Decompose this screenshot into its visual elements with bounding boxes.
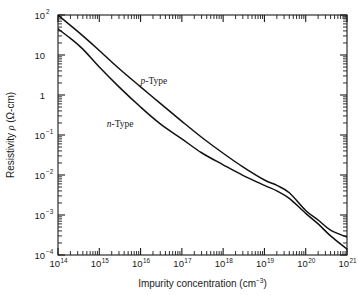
- y-tick-label: 10−2: [34, 168, 53, 180]
- curve-annotation-text: n-Type: [107, 119, 134, 129]
- x-tick-label-mantissa: 10: [297, 258, 308, 269]
- x-tick-label: 1020: [297, 257, 316, 269]
- x-axis-title-text: Impurity concentration (cm−3): [138, 277, 267, 289]
- y-tick-label-mantissa: 1: [40, 90, 45, 101]
- x-tick-label: 1016: [132, 257, 151, 269]
- x-tick-label-mantissa: 10: [132, 258, 143, 269]
- plot-frame: [58, 15, 347, 255]
- y-tick-label-mantissa: 10: [34, 210, 45, 221]
- chart-canvas: 1014101510161017101810191020102110210110…: [0, 0, 358, 295]
- x-tick-label-exponent: 15: [102, 257, 110, 264]
- resistivity-chart-figure: 1014101510161017101810191020102110210110…: [0, 0, 358, 295]
- curve-annotation-text: p-Type: [139, 76, 167, 86]
- y-tick-label-exponent: −1: [46, 128, 54, 135]
- y-tick-label-mantissa: 10: [34, 50, 45, 61]
- x-tick-label-mantissa: 10: [256, 258, 267, 269]
- y-tick-label-exponent: −3: [46, 208, 54, 215]
- x-tick-label-exponent: 14: [61, 257, 69, 264]
- y-tick-label-exponent: −2: [46, 168, 54, 175]
- x-tick-label-mantissa: 10: [91, 258, 102, 269]
- x-tick-label: 1021: [339, 257, 358, 269]
- x-tick-label-exponent: 19: [267, 257, 275, 264]
- x-tick-label: 1014: [50, 257, 69, 269]
- x-tick-label-exponent: 21: [350, 257, 358, 264]
- curve-annotation-p-type: p-Type: [139, 76, 167, 86]
- y-tick-label: 1: [40, 90, 45, 101]
- y-tick-label: 10−3: [34, 208, 53, 220]
- y-tick-label: 10: [34, 50, 45, 61]
- x-tick-label: 1019: [256, 257, 275, 269]
- y-axis-title-text: Resistivity ρ (Ω-cm): [5, 92, 16, 178]
- curve-annotation-n-type: n-Type: [107, 119, 134, 129]
- curve-p-type: [58, 15, 347, 237]
- x-tick-label-exponent: 20: [308, 257, 316, 264]
- y-tick-label: 10−1: [34, 128, 53, 140]
- x-tick-label-mantissa: 10: [50, 258, 61, 269]
- x-tick-label-mantissa: 10: [339, 258, 350, 269]
- y-tick-label: 102: [34, 8, 50, 20]
- curve-n-type: [58, 29, 347, 249]
- x-tick-label-exponent: 18: [226, 257, 234, 264]
- x-tick-label-mantissa: 10: [215, 258, 226, 269]
- x-tick-label: 1015: [91, 257, 110, 269]
- y-tick-label-mantissa: 10: [34, 170, 45, 181]
- x-tick-label-mantissa: 10: [173, 258, 184, 269]
- y-tick-label-exponent: −4: [46, 248, 54, 255]
- y-tick-label-mantissa: 10: [34, 130, 45, 141]
- x-tick-label-exponent: 16: [143, 257, 151, 264]
- x-tick-label: 1017: [173, 257, 192, 269]
- y-tick-label-mantissa: 10: [34, 10, 45, 21]
- y-tick-label-mantissa: 10: [34, 250, 45, 261]
- x-tick-label: 1018: [215, 257, 234, 269]
- x-tick-label-exponent: 17: [184, 257, 192, 264]
- y-axis-title: Resistivity ρ (Ω-cm): [5, 92, 16, 178]
- y-tick-label-exponent: 2: [46, 8, 50, 15]
- x-axis-title: Impurity concentration (cm−3): [138, 277, 267, 289]
